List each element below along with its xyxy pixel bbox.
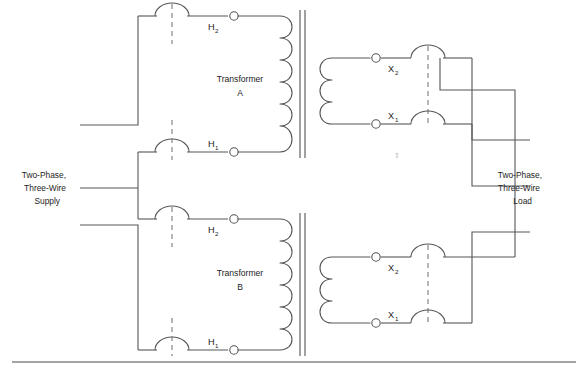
label-b-h2: H [208,225,215,235]
label-b-x2: X [388,263,394,273]
label-b-h1-sub: 1 [215,342,219,349]
core-a [300,10,305,158]
load-label-line3: Load [513,196,532,206]
label-b-x1-sub: 1 [395,315,399,322]
wire-supply-to-a-h2 [80,16,138,125]
coil-b-primary [238,219,292,350]
label-a-h1-sub: 1 [215,144,219,151]
label-b-h2-sub: 2 [215,230,219,237]
terminal-a-h2[interactable] [230,12,238,20]
transformer-b-name-line2: B [237,282,243,292]
terminal-b-x2[interactable] [372,253,380,261]
terminal-b-h1[interactable] [230,346,238,354]
coil-a-primary [238,16,292,152]
load-label-line1: Two-Phase, [498,170,542,180]
label-a-x1-sub: 1 [395,116,399,123]
wire-a-x2-to-load [472,58,530,140]
label-a-h1: H [208,139,215,149]
label-a-h2-sub: 2 [215,27,219,34]
core-b [300,213,305,356]
transformer-a-name-line1: Transformer [217,74,264,84]
label-a-x1: X [388,111,394,121]
terminal-a-h1[interactable] [230,148,238,156]
label-a-h2: H [208,22,215,32]
label-b-h1: H [208,337,215,347]
transformer-a-name-line2: A [237,88,243,98]
label-b-x1: X [388,310,394,320]
terminal-a-x1[interactable] [372,120,380,128]
supply-label-line1: Two-Phase, [22,170,66,180]
wire-b-x2-riser [440,58,515,257]
transformer-b-name-line1: Transformer [217,268,264,278]
label-a-x2-sub: 2 [395,69,399,76]
supply-label-line2: Three-Wire [24,183,66,193]
supply-label-line3: Supply [34,196,60,206]
coil-b-secondary [320,257,370,323]
terminal-a-x2[interactable] [372,54,380,62]
scan-artifact-dot-lower [396,156,398,158]
transformer-schematic: H 2 H 1 X 2 X 1 H 2 H 1 [0,0,588,374]
coil-a-secondary [320,58,370,124]
terminal-b-x1[interactable] [372,319,380,327]
wire-supply-to-b-h1 [80,225,138,350]
scan-artifact-dot-upper [395,152,398,155]
label-a-x2: X [388,64,394,74]
terminal-b-h2[interactable] [230,215,238,223]
label-b-x2-sub: 2 [395,268,399,275]
wire-b-x1-to-load [472,232,530,323]
load-label-line2: Three-Wire [498,183,540,193]
